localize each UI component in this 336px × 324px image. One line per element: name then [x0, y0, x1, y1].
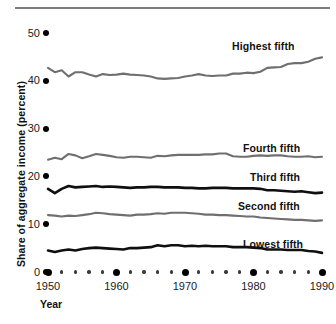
- series-label-second-fifth: Second fifth: [238, 200, 300, 212]
- x-axis-title: Year: [40, 298, 62, 310]
- series-label-third-fifth: Third fifth: [250, 171, 300, 183]
- series-line-second-fifth: [48, 213, 322, 221]
- series-label-highest-fifth: Highest fifth: [232, 40, 295, 52]
- series-line-fourth-fifth: [48, 153, 322, 159]
- series-label-fourth-fifth: Fourth fifth: [243, 142, 300, 154]
- series-line-highest-fifth: [48, 57, 322, 79]
- series-label-lowest-fifth: Lowest fifth: [243, 238, 303, 250]
- income-share-chart: Share of aggregate income (percent) 5040…: [0, 0, 336, 324]
- series-line-third-fifth: [48, 186, 322, 193]
